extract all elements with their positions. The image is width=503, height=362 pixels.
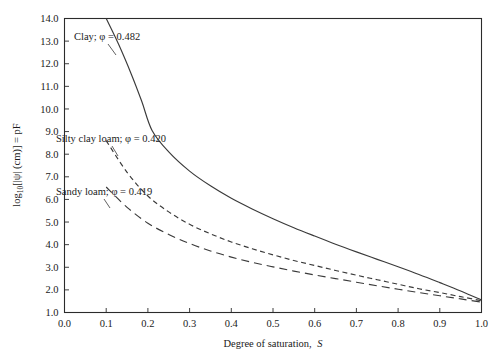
chart-canvas: 1.02.03.04.05.06.07.08.09.010.011.012.01… [0,0,503,362]
x-tick-label: 0.1 [100,318,113,329]
y-tick-label: 7.0 [45,171,58,182]
y-tick-label: 10.0 [40,104,58,115]
x-tick-label: 0.2 [141,318,154,329]
series-label-sandy-loam: Sandy loam; φ = 0.419 [56,186,152,197]
y-tick-label: 13.0 [40,36,58,47]
y-tick-label: 5.0 [45,217,58,228]
x-tick-label: 0.4 [225,318,239,329]
x-axis-title-symbol: S [317,338,323,349]
x-tick-label: 0.3 [183,318,196,329]
x-tick-label: 0.9 [433,318,446,329]
y-tick-label: 12.0 [40,58,58,69]
x-tick-label: 0.6 [308,318,321,329]
x-tick-label: 0.7 [350,318,363,329]
y-tick-label: 4.0 [45,239,58,250]
x-axis-title: Degree of saturation, S [223,338,323,349]
series-label-clay: Clay; φ = 0.482 [74,31,140,42]
y-tick-label: 14.0 [40,13,58,24]
y-axis-title-prefix: log [11,193,22,207]
y-tick-label: 2.0 [45,284,58,295]
x-tick-label: 0.0 [58,318,71,329]
x-tick-label: 1.0 [475,318,488,329]
figure-container: 1.02.03.04.05.06.07.08.09.010.011.012.01… [0,0,503,362]
y-axis-title-rest: [|ψ| (cm)] = pF [11,123,23,186]
x-tick-label: 0.5 [266,318,279,329]
x-tick-label: 0.8 [392,318,405,329]
chart-background [0,0,503,362]
y-tick-label: 3.0 [45,262,58,273]
series-label-silty-clay-loam: Silty clay loam; φ = 0.420 [56,133,166,144]
y-tick-label: 11.0 [41,81,59,92]
y-tick-label: 1.0 [45,307,58,318]
x-axis-title-main: Degree of saturation, [223,338,311,349]
y-tick-label: 8.0 [45,149,58,160]
